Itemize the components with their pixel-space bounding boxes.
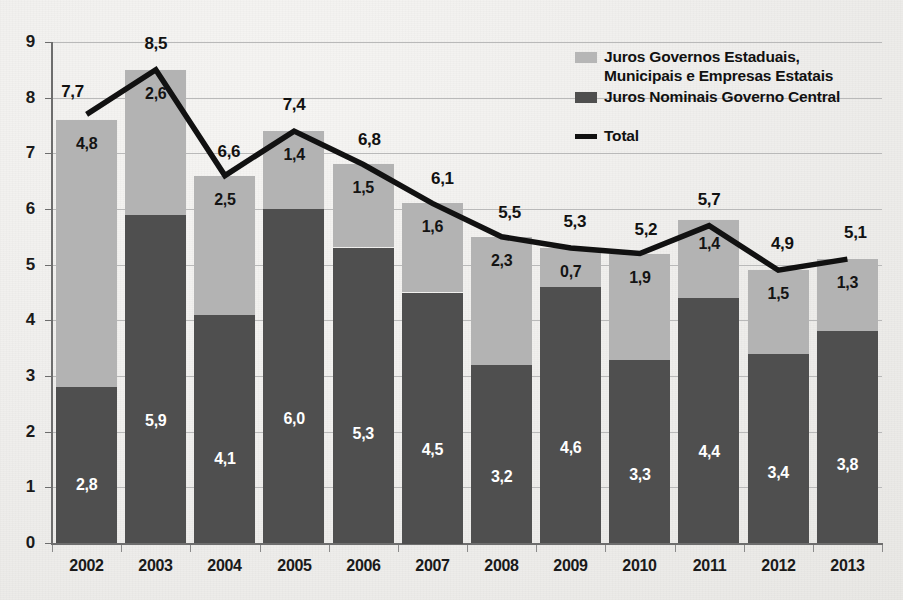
legend-item[interactable]: Juros Governos Estaduais,Municipais e Em…	[575, 48, 895, 86]
bar-value-label-governo-central: 4,1	[214, 450, 235, 468]
legend-swatch-swatch-dark-icon	[575, 92, 597, 103]
x-axis-category-label: 2007	[398, 557, 467, 575]
total-value-label: 4,9	[771, 234, 794, 254]
total-value-label: 7,7	[61, 82, 84, 102]
legend-item[interactable]: Total	[575, 127, 895, 146]
x-axis-category-label: 2004	[190, 557, 259, 575]
total-value-label: 6,1	[431, 169, 454, 189]
total-value-label: 5,1	[844, 223, 867, 243]
x-axis-category-label: 2008	[467, 557, 536, 575]
bar-value-label-estaduais-municipais: 2,6	[145, 85, 166, 103]
total-value-label: 6,6	[218, 142, 241, 162]
total-value-label: 7,4	[283, 95, 306, 115]
x-axis-category-label: 2011	[675, 557, 744, 575]
total-value-label: 5,3	[563, 212, 586, 232]
total-value-label: 5,5	[498, 203, 521, 223]
bar-value-label-estaduais-municipais: 1,5	[768, 285, 789, 303]
total-value-label: 5,2	[635, 220, 658, 240]
legend-item-label: Juros Governos Estaduais,Municipais e Em…	[604, 48, 833, 86]
bar-value-label-estaduais-municipais: 1,5	[353, 179, 374, 197]
chart-legend: Juros Governos Estaduais,Municipais e Em…	[575, 48, 895, 148]
bar-value-label-governo-central: 5,3	[353, 425, 374, 443]
bar-value-label-governo-central: 3,3	[629, 466, 650, 484]
bar-value-label-governo-central: 2,8	[76, 476, 97, 494]
bar-value-label-governo-central: 4,4	[698, 443, 719, 461]
total-value-label: 6,8	[358, 130, 381, 150]
legend-item[interactable]: Juros Nominais Governo Central	[575, 88, 895, 107]
bar-value-label-estaduais-municipais: 1,9	[629, 269, 650, 287]
x-axis-category-label: 2010	[605, 557, 674, 575]
bar-value-label-governo-central: 4,6	[560, 439, 581, 457]
x-axis-category-label: 2012	[744, 557, 813, 575]
bar-value-label-governo-central: 3,2	[491, 468, 512, 486]
total-value-label: 5,7	[698, 190, 721, 210]
x-axis-category-label: 2003	[121, 557, 190, 575]
legend-swatch-swatch-light-icon	[575, 52, 597, 63]
bar-value-label-estaduais-municipais: 2,3	[491, 252, 512, 270]
legend-item-label: Total	[604, 127, 639, 146]
x-axis-category-label: 2002	[52, 557, 121, 575]
bar-value-label-estaduais-municipais: 0,7	[560, 263, 581, 281]
bar-value-label-estaduais-municipais: 2,5	[214, 191, 235, 209]
x-axis-category-label: 2013	[813, 557, 882, 575]
legend-swatch-line-black-icon	[575, 134, 597, 139]
bar-value-label-estaduais-municipais: 1,3	[837, 274, 858, 292]
bar-value-label-governo-central: 6,0	[283, 410, 304, 428]
bar-value-label-estaduais-municipais: 4,8	[76, 135, 97, 153]
stacked-bar-chart: 0123456789 2,84,85,92,64,12,56,01,45,31,…	[0, 0, 903, 600]
bar-value-label-estaduais-municipais: 1,4	[698, 235, 719, 253]
total-value-label: 8,5	[144, 34, 167, 54]
bar-value-label-governo-central: 3,4	[768, 464, 789, 482]
legend-item-label: Juros Nominais Governo Central	[604, 88, 840, 107]
x-axis-category-label: 2009	[536, 557, 605, 575]
x-axis-category-label: 2006	[329, 557, 398, 575]
bar-value-label-governo-central: 3,8	[837, 456, 858, 474]
legend-spacer	[575, 109, 895, 127]
x-axis-category-label: 2005	[260, 557, 329, 575]
bar-value-label-governo-central: 5,9	[145, 412, 166, 430]
bar-value-label-estaduais-municipais: 1,4	[283, 146, 304, 164]
bar-value-label-estaduais-municipais: 1,6	[422, 218, 443, 236]
bar-value-label-governo-central: 4,5	[422, 441, 443, 459]
